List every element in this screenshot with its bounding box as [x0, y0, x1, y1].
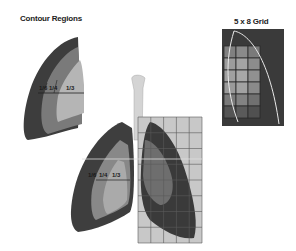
grid-panel-diagram	[222, 29, 284, 126]
figure-canvas: 1/6 1/4 1/3	[0, 0, 296, 251]
lung-fraction-label: 1/6	[88, 172, 97, 178]
fraction-label: 1/6	[39, 85, 48, 91]
contour-lung-diagram: 1/6 1/4 1/3	[24, 37, 84, 140]
lung-fraction-label: 1/3	[112, 172, 121, 178]
lung-fraction-label: 1/4	[99, 172, 108, 178]
fraction-label: 1/4	[49, 85, 58, 91]
fraction-label: 1/3	[66, 85, 75, 91]
